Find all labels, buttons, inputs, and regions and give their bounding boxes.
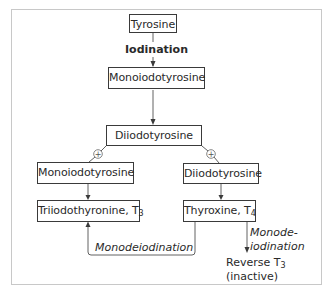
edge-label-monodeiodination-line2: iodination bbox=[250, 240, 305, 253]
plus-right: + bbox=[208, 150, 215, 159]
arrowhead-icon bbox=[86, 222, 91, 228]
node-monoiodotyrosine-top: Monoiodotyrosine bbox=[108, 67, 205, 89]
arrowhead-icon bbox=[245, 247, 250, 253]
node-label: Thyroxine, T bbox=[184, 204, 251, 217]
node-triiodothyronine-t3: Triiodothyronine, T3 bbox=[37, 200, 140, 222]
node-tyrosine: Tyrosine bbox=[129, 14, 177, 33]
edge-label-monodeiodination-loop: Monodeiodination bbox=[95, 241, 193, 254]
node-reverse-t3: Reverse T3 bbox=[226, 256, 286, 269]
node-label: Diiodotyrosine bbox=[184, 167, 262, 180]
plus-left: + bbox=[95, 150, 102, 159]
edge-label-monodeiodination-line1: Monode- bbox=[250, 226, 298, 239]
node-monoiodotyrosine-left: Monoiodotyrosine bbox=[37, 162, 134, 184]
node-diiodotyrosine-top: Diiodotyrosine bbox=[106, 125, 202, 146]
node-label: Reverse T bbox=[226, 256, 280, 269]
edge-label-iodination: Iodination bbox=[125, 43, 181, 56]
node-label: Triiodothyronine, T bbox=[38, 204, 139, 217]
node-diiodotyrosine-right: Diiodotyrosine bbox=[183, 163, 259, 184]
node-label: Diiodotyrosine bbox=[115, 129, 193, 142]
subscript: 4 bbox=[251, 209, 256, 218]
node-reverse-t3-note: (inactive) bbox=[226, 270, 278, 283]
subscript: 3 bbox=[280, 261, 285, 270]
node-label: Monoiodotyrosine bbox=[109, 71, 205, 84]
node-thyroxine-t4: Thyroxine, T4 bbox=[183, 200, 256, 222]
node-label: Monoiodotyrosine bbox=[38, 166, 134, 179]
edge-di-to-left-plus bbox=[101, 146, 106, 151]
node-label: Tyrosine bbox=[131, 18, 175, 31]
subscript: 3 bbox=[139, 209, 144, 218]
